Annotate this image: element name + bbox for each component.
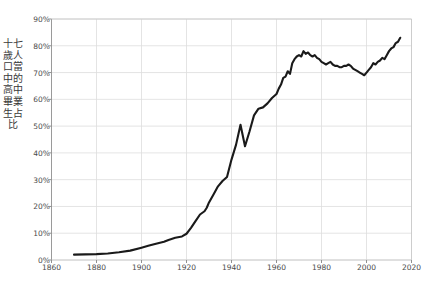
x-tick-label: 1860: [42, 263, 61, 272]
x-tick-label: 1880: [87, 263, 106, 272]
x-tick-label: 1920: [177, 263, 196, 272]
x-tick-label: 1940: [222, 263, 241, 272]
x-tick-label: 1960: [267, 263, 286, 272]
plot-area: [0, 0, 425, 281]
x-tick-label: 1980: [312, 263, 331, 272]
gridlines: [52, 19, 412, 260]
data-series-line: [74, 38, 400, 255]
x-tick-label: 2000: [357, 263, 376, 272]
x-tick-label: 2020: [402, 263, 421, 272]
chart-container: 十七歲人口當中的高中畢業生占比 0%10%20%30%40%50%60%70%8…: [0, 0, 425, 281]
axis-tickmarks: [48, 19, 412, 263]
x-tick-label: 1900: [132, 263, 151, 272]
